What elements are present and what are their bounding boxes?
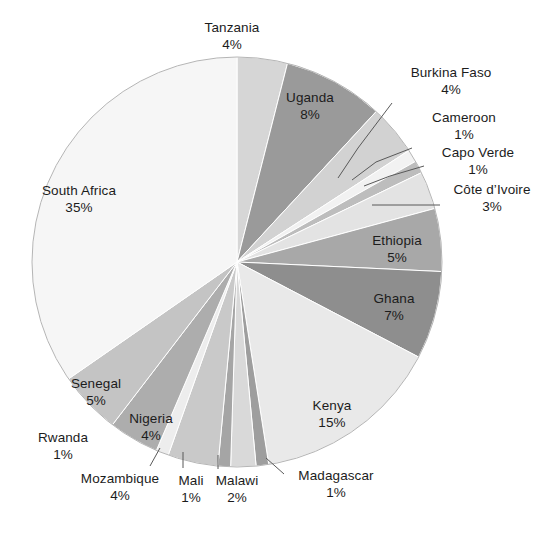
pie-label-name-mali: Mali [178, 473, 203, 490]
pie-label-south-africa: South Africa35% [42, 183, 116, 216]
pie-label-mozambique: Mozambique4% [81, 471, 159, 504]
pie-label-value-burkina-faso: 4% [411, 82, 492, 99]
pie-label-value-mozambique: 4% [81, 488, 159, 505]
pie-label-c-te-d-ivoire: Côte d’Ivoire3% [453, 182, 530, 215]
pie-label-value-madagascar: 1% [298, 485, 373, 502]
pie-label-ethiopia: Ethiopia5% [372, 233, 422, 266]
pie-label-name-kenya: Kenya [313, 398, 352, 415]
pie-label-value-c-te-d-ivoire: 3% [453, 199, 530, 216]
pie-label-madagascar: Madagascar1% [298, 468, 373, 501]
pie-chart: Tanzania4%Uganda8%Burkina Faso4%Cameroon… [0, 0, 554, 534]
pie-label-name-c-te-d-ivoire: Côte d’Ivoire [453, 182, 530, 199]
pie-label-name-madagascar: Madagascar [298, 468, 373, 485]
pie-label-name-uganda: Uganda [286, 90, 334, 107]
pie-label-name-malawi: Malawi [216, 473, 259, 490]
pie-label-value-uganda: 8% [286, 107, 334, 124]
pie-label-mali: Mali1% [178, 473, 203, 506]
pie-label-name-tanzania: Tanzania [205, 20, 260, 37]
pie-label-senegal: Senegal5% [71, 376, 121, 409]
pie-label-value-ethiopia: 5% [372, 250, 422, 267]
pie-label-value-nigeria: 4% [129, 428, 172, 445]
pie-label-value-senegal: 5% [71, 393, 121, 410]
pie-label-name-mozambique: Mozambique [81, 471, 159, 488]
pie-label-rwanda: Rwanda1% [38, 430, 88, 463]
pie-label-name-nigeria: Nigeria [129, 411, 172, 428]
pie-label-name-ethiopia: Ethiopia [372, 233, 422, 250]
pie-label-value-rwanda: 1% [38, 447, 88, 464]
pie-label-value-capo-verde: 1% [442, 162, 514, 179]
pie-label-value-kenya: 15% [313, 415, 352, 432]
pie-label-value-mali: 1% [178, 490, 203, 507]
pie-label-kenya: Kenya15% [313, 398, 352, 431]
pie-label-name-ghana: Ghana [373, 291, 414, 308]
pie-label-nigeria: Nigeria4% [129, 411, 172, 444]
pie-label-malawi: Malawi2% [216, 473, 259, 506]
pie-label-name-senegal: Senegal [71, 376, 121, 393]
pie-label-burkina-faso: Burkina Faso4% [411, 65, 492, 98]
pie-label-value-malawi: 2% [216, 490, 259, 507]
pie-label-name-cameroon: Cameroon [432, 110, 496, 127]
footer-cut-text [0, 524, 554, 534]
pie-label-value-cameroon: 1% [432, 127, 496, 144]
pie-label-value-tanzania: 4% [205, 37, 260, 54]
pie-label-name-burkina-faso: Burkina Faso [411, 65, 492, 82]
pie-label-uganda: Uganda8% [286, 90, 334, 123]
pie-label-name-capo-verde: Capo Verde [442, 145, 514, 162]
leader-line-mozambique [150, 448, 160, 466]
pie-label-cameroon: Cameroon1% [432, 110, 496, 143]
pie-label-capo-verde: Capo Verde1% [442, 145, 514, 178]
pie-label-name-south-africa: South Africa [42, 183, 116, 200]
pie-label-ghana: Ghana7% [373, 291, 414, 324]
pie-label-tanzania: Tanzania4% [205, 20, 260, 53]
pie-label-name-rwanda: Rwanda [38, 430, 88, 447]
pie-label-value-ghana: 7% [373, 308, 414, 325]
pie-label-value-south-africa: 35% [42, 200, 116, 217]
